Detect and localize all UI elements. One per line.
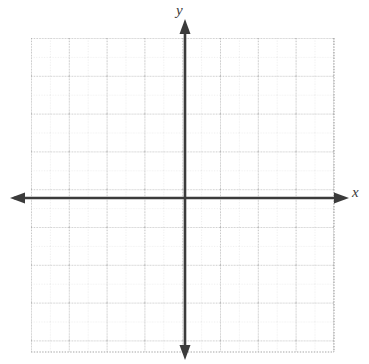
x-axis-arrow-left	[10, 193, 25, 204]
grid-area	[31, 38, 334, 352]
y-axis-label: y	[176, 3, 183, 18]
grid-and-axes-svg	[0, 0, 369, 364]
y-axis-arrow-up	[180, 19, 191, 34]
x-axis-label: x	[352, 185, 359, 200]
coordinate-plane-figure: y x	[0, 0, 369, 364]
x-axis-arrow-right	[334, 193, 349, 204]
